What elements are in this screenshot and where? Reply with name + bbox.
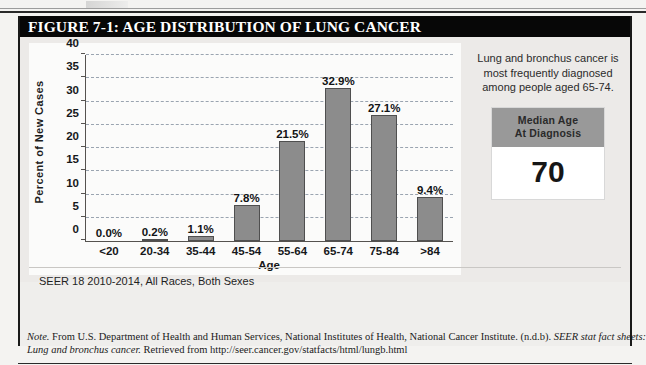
y-tick-mark	[81, 169, 85, 170]
bar-value-label: 9.4%	[417, 184, 443, 196]
y-tick-label: 10	[66, 177, 79, 189]
y-axis-title-text: Percent of New Cases	[33, 81, 45, 204]
bar[interactable]: 7.8%	[234, 205, 260, 241]
note-label: Note.	[27, 331, 49, 342]
y-tick-label: 25	[66, 107, 79, 119]
y-tick-label: 40	[66, 37, 79, 49]
x-tick-label: 45-54	[232, 245, 261, 257]
bar-slot: 9.4%>84	[407, 55, 453, 241]
bar-slot: 0.0%<20	[86, 55, 132, 241]
bar-value-label: 1.1%	[188, 223, 214, 235]
bar-slot: 0.2%20-34	[132, 55, 178, 241]
bar-slot: 21.5%55-64	[270, 55, 316, 241]
bar[interactable]: 32.9%	[325, 88, 351, 241]
note-line1-a: From U.S. Department of Health and Human…	[49, 331, 553, 342]
y-tick-mark	[81, 53, 85, 54]
bar[interactable]: 27.1%	[371, 115, 397, 241]
bar[interactable]: 1.1%	[188, 236, 214, 241]
bar-slot: 27.1%75-84	[361, 55, 407, 241]
bar-chart: Percent of New Cases 0510152025303540 0.…	[29, 43, 461, 275]
figure-container: FIGURE 7-1: AGE DISTRIBUTION OF LUNG CAN…	[18, 16, 632, 346]
median-age-header-line-2: At Diagnosis	[494, 127, 602, 140]
page-top-rule-thick	[0, 11, 646, 13]
median-age-header-line-1: Median Age	[494, 114, 602, 127]
median-age-box-header: Median Age At Diagnosis	[492, 108, 604, 147]
note-line1-b: SEER stat fact sheets:	[554, 331, 646, 342]
x-tick-label: 75-84	[369, 245, 398, 257]
y-tick-label: 5	[73, 200, 79, 212]
bar-value-label: 0.0%	[96, 227, 122, 239]
y-tick-label: 15	[66, 153, 79, 165]
scan-artifact	[86, 1, 128, 8]
x-tick-label: 20-34	[140, 245, 169, 257]
note-line2-b: Retrieved from http://seer.cancer.gov/st…	[141, 344, 408, 355]
y-tick-mark	[81, 100, 85, 101]
x-tick-label: 55-64	[278, 245, 307, 257]
figure-note-line-1: Note. From U.S. Department of Health and…	[27, 331, 627, 344]
figure-body: Percent of New Cases 0510152025303540 0.…	[20, 37, 630, 282]
side-panel: Lung and bronchus cancer is most frequen…	[472, 43, 624, 275]
y-tick-mark	[81, 239, 85, 240]
side-panel-note: Lung and bronchus cancer is most frequen…	[472, 43, 624, 95]
bar-value-label: 27.1%	[368, 102, 401, 114]
bar[interactable]: 21.5%	[279, 141, 305, 241]
median-age-value: 70	[492, 147, 604, 199]
y-tick-mark	[81, 76, 85, 77]
x-tick-label: <20	[99, 245, 119, 257]
document-page: FIGURE 7-1: AGE DISTRIBUTION OF LUNG CAN…	[0, 0, 646, 365]
chart-card: Percent of New Cases 0510152025303540 0.…	[29, 43, 461, 275]
page-bottom-rule	[18, 363, 632, 364]
bar[interactable]: 0.2%	[142, 239, 168, 241]
bar[interactable]: 9.4%	[417, 197, 443, 241]
figure-note-line-2: Lung and bronchus cancer. Retrieved from…	[27, 344, 627, 357]
figure-title: FIGURE 7-1: AGE DISTRIBUTION OF LUNG CAN…	[28, 18, 421, 36]
bar-slot: 1.1%35-44	[178, 55, 224, 241]
x-tick-label: >84	[420, 245, 440, 257]
bar-slot: 7.8%45-54	[224, 55, 270, 241]
bar-slot: 32.9%65-74	[315, 55, 361, 241]
y-tick-label: 20	[66, 130, 79, 142]
figure-title-bar: FIGURE 7-1: AGE DISTRIBUTION OF LUNG CAN…	[20, 16, 630, 37]
chart-source-caption: SEER 18 2010-2014, All Races, Both Sexes	[29, 267, 621, 287]
note-line2-a: Lung and bronchus cancer.	[27, 344, 141, 355]
y-axis-title: Percent of New Cases	[31, 43, 47, 241]
bars-group: 0.0%<200.2%20-341.1%35-447.8%45-5421.5%5…	[86, 55, 453, 241]
bar-value-label: 21.5%	[276, 128, 309, 140]
page-top-rule	[0, 8, 646, 9]
bar-value-label: 7.8%	[233, 192, 259, 204]
y-tick-label: 35	[66, 60, 79, 72]
y-tick-label: 0	[73, 223, 79, 235]
y-tick-mark	[81, 123, 85, 124]
figure-note: Note. From U.S. Department of Health and…	[27, 331, 627, 356]
y-tick-label: 30	[66, 84, 79, 96]
y-tick-mark	[81, 193, 85, 194]
bar-value-label: 0.2%	[142, 226, 168, 238]
y-tick-mark	[81, 216, 85, 217]
y-tick-mark	[81, 146, 85, 147]
x-tick-label: 35-44	[186, 245, 215, 257]
plot-area: 0510152025303540 0.0%<200.2%20-341.1%35-…	[85, 55, 453, 242]
x-tick-label: 65-74	[324, 245, 353, 257]
bar-value-label: 32.9%	[322, 75, 355, 87]
median-age-box: Median Age At Diagnosis 70	[491, 107, 605, 200]
